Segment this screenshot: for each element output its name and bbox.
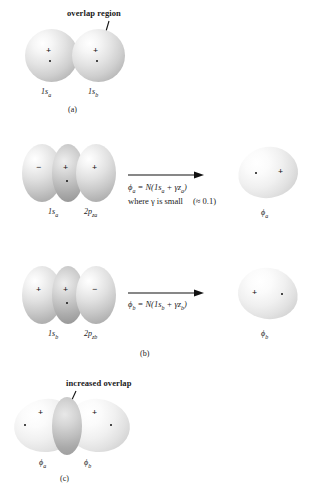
hybrid-orbital-phi-a — [235, 143, 302, 202]
orbital-label-1s-a: 1sa — [41, 88, 51, 98]
orbital-label-phi-a-c: ϕa — [39, 459, 46, 469]
equation-phi-b: ϕb = N(1sb + γzb) — [128, 300, 187, 311]
lobe-sign-plus-mid-b1: + — [63, 163, 68, 172]
orbital-label-1s-a-row2: 1sa — [48, 208, 58, 218]
orbital-label-2pz-a: 2pza — [84, 208, 97, 218]
equation-phi-a: ϕa = N(1sa + γza) — [128, 183, 187, 194]
equation-note-gamma: where γ is small(≈ 0.1) — [128, 197, 216, 206]
lobe-sign-minus-b2: − — [92, 285, 97, 294]
lobe-sign-plus-right-b1: + — [92, 163, 97, 172]
lobe-sign-plus-mid-b2: + — [63, 285, 68, 294]
sign-plus-b: + — [93, 46, 98, 55]
orbital-label-phi-a: ϕa — [261, 209, 268, 219]
increased-overlap-label: increased overlap — [66, 379, 132, 388]
sign-plus-a: + — [46, 46, 51, 55]
lobe-sign-plus-left-b2: + — [36, 285, 41, 294]
orbital-label-1s-b-row3: 1sb — [48, 330, 58, 340]
orbital-1s-b-sphere — [72, 29, 125, 82]
panel-caption-c: (c) — [60, 475, 69, 483]
hybrid-orbital-phi-b — [235, 264, 302, 323]
panel-caption-a: (a) — [68, 106, 77, 114]
sign-plus-phi-a-c: + — [38, 408, 43, 417]
orbital-2pz-a-lobe-right — [76, 144, 116, 202]
transform-arrow-a — [128, 170, 208, 182]
orbital-1s-a-sphere — [25, 29, 78, 82]
lobe-sign-minus-b1: − — [36, 163, 41, 172]
overlap-region-label: overlap region — [67, 9, 121, 18]
orbital-label-phi-b: ϕb — [261, 330, 268, 340]
sign-plus-phi-a: + — [278, 167, 283, 176]
orbital-label-1s-b: 1sb — [88, 88, 98, 98]
sign-plus-phi-b-c: + — [92, 408, 97, 417]
overlap-lens-region — [52, 397, 82, 455]
orbital-label-2pz-b: 2pzb — [84, 330, 97, 340]
panel-caption-b: (b) — [140, 350, 149, 358]
orbital-label-phi-b-c: ϕb — [84, 459, 91, 469]
sign-plus-phi-b: + — [252, 288, 257, 297]
figure-canvas: overlap region + + 1sa 1sb (a) − + + 1sa… — [0, 0, 316, 490]
orbital-2pz-b-lobe-right — [76, 266, 116, 324]
